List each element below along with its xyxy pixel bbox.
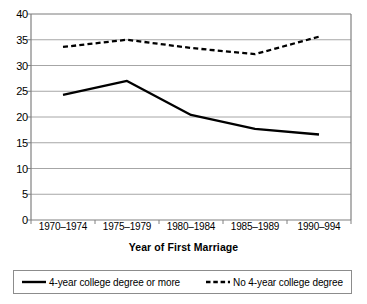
x-tick-label: 1980–1984 — [159, 221, 223, 237]
dashed-line-icon — [206, 277, 230, 287]
gridlines — [31, 14, 351, 194]
legend-label: 4-year college degree or more — [49, 277, 180, 288]
y-tick-label: 30 — [2, 61, 28, 72]
y-tick-label: 0 — [2, 215, 28, 226]
y-tick-label: 15 — [2, 138, 28, 149]
legend-entry-dashed: No 4-year college degree — [206, 277, 343, 288]
chart-legend: 4-year college degree or more No 4-year … — [13, 270, 352, 294]
y-tick-label: 5 — [2, 189, 28, 200]
y-tick-label: 20 — [2, 112, 28, 123]
x-tick-label: 1990–994 — [287, 221, 351, 237]
x-axis-tick-labels: 1970–1974 1975–1979 1980–1984 1985–1989 … — [31, 221, 351, 237]
line-chart: 40 35 30 25 20 15 10 5 0 1970–1974 1975 — [0, 0, 367, 304]
plot-area: 40 35 30 25 20 15 10 5 0 1970–1974 1975 — [0, 0, 367, 232]
y-tick-label: 40 — [2, 9, 28, 20]
x-tick-label: 1970–1974 — [31, 221, 95, 237]
y-axis-tick-labels: 40 35 30 25 20 15 10 5 0 — [0, 0, 28, 232]
y-tick-label: 10 — [2, 164, 28, 175]
x-tick-label: 1985–1989 — [223, 221, 287, 237]
y-tick-label: 35 — [2, 35, 28, 46]
x-tick-label: 1975–1979 — [95, 221, 159, 237]
data-series-layer — [63, 37, 319, 135]
y-tick-label: 25 — [2, 86, 28, 97]
series-line-0 — [63, 81, 319, 135]
legend-entry-solid: 4-year college degree or more — [22, 277, 180, 288]
legend-label: No 4-year college degree — [233, 277, 343, 288]
solid-line-icon — [22, 277, 46, 287]
plot-svg — [0, 0, 367, 232]
x-axis-title: Year of First Marriage — [0, 241, 367, 253]
